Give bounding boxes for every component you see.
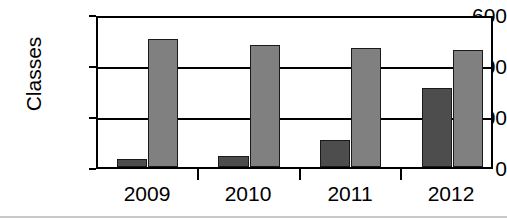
y-tick-mark-400	[89, 66, 96, 68]
x-tick-label-2012: 2012	[405, 182, 497, 206]
y-tick-mark-0	[89, 168, 96, 170]
y-tick-mark-600	[89, 15, 96, 17]
bar-2010-series-1	[218, 156, 249, 167]
x-category-tick-2	[299, 169, 301, 180]
y-tick-mark-200	[89, 117, 96, 119]
y-axis-title: Classes	[22, 4, 46, 144]
footer-divider	[0, 216, 507, 218]
plot-area	[96, 16, 493, 169]
bar-2009-series-1	[117, 159, 147, 167]
x-category-tick-3	[400, 169, 402, 180]
bar-2012-series-1	[422, 88, 452, 167]
bar-2009-series-2	[148, 39, 178, 167]
bar-2011-series-1	[320, 140, 350, 167]
x-category-tick-1	[197, 169, 199, 180]
x-tick-label-2011: 2011	[304, 182, 396, 206]
bar-chart-figure: Classes 600 400 200 0 2009 2010 2011 201…	[0, 0, 507, 224]
bar-2010-series-2	[250, 45, 280, 167]
bar-2012-series-2	[453, 50, 483, 167]
x-tick-label-2009: 2009	[101, 182, 193, 206]
x-tick-label-2010: 2010	[202, 182, 294, 206]
bar-2011-series-2	[351, 48, 381, 167]
